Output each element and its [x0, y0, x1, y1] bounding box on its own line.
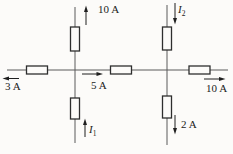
resistor-top-right-vertical: [163, 27, 172, 50]
resistor-left-horizontal: [27, 66, 48, 74]
current-arrow-bottom-right-down: [173, 115, 177, 135]
resistor-bottom-right-vertical: [163, 96, 172, 118]
resistor-middle-horizontal: [111, 66, 132, 74]
current-label-right: 10 A: [206, 82, 227, 94]
resistor-right-horizontal: [189, 66, 210, 74]
current-arrow-right: [204, 77, 226, 81]
resistor-bottom-left-vertical: [71, 98, 80, 119]
circuit-diagram-canvas: 10 A I2 3 A 5 A 10 A: [0, 0, 233, 154]
current-label-bottom-right: 2 A: [181, 118, 197, 130]
current-label-top-right: I2: [177, 3, 186, 18]
current-arrow-middle-right: [82, 72, 103, 76]
current-arrow-bottom-left-up: [83, 119, 87, 138]
current-label-top-left: 10 A: [98, 3, 119, 15]
current-arrow-top-right-down: [173, 3, 177, 25]
current-label-left: 3 A: [5, 80, 21, 92]
current-label-bottom-left: I1: [88, 123, 97, 138]
resistor-top-left-vertical: [71, 27, 80, 51]
circuit-diagram: 10 A I2 3 A 5 A 10 A: [0, 0, 233, 154]
current-label-middle: 5 A: [91, 79, 107, 91]
current-arrow-top-left-up: [84, 6, 88, 26]
